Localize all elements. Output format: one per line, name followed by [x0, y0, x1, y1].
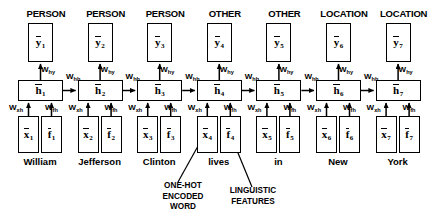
weight-label-wxh-2: Wxh [69, 104, 83, 113]
output-box-y4: y4 [207, 23, 232, 62]
weight-label-why-6: Why [339, 66, 353, 75]
input-vector-x5: x5 [262, 128, 272, 142]
output-vector-y3: y3 [155, 36, 165, 50]
weight-label-wxh-1: Wxh [9, 104, 23, 113]
feature-vector-f2: f2 [107, 128, 115, 142]
hidden-vector-h2: h2 [95, 84, 105, 98]
input-vector-x2: x2 [83, 128, 93, 142]
output-box-y3: y3 [147, 23, 172, 62]
entity-tag-label-7: LOCATION [367, 8, 437, 19]
feature-box-f6: f6 [339, 116, 360, 153]
output-vector-y6: y6 [334, 36, 344, 50]
input-box-x4: x4 [197, 116, 218, 153]
input-box-x5: x5 [256, 116, 277, 153]
word-label-7: York [361, 156, 435, 167]
hidden-box-h1: h1 [18, 80, 63, 101]
input-box-x1: x1 [18, 116, 39, 153]
rnn-diagram: PERSONy1Whyh1WhhWxhWfhx1f1WilliamPERSONy… [0, 0, 437, 220]
input-vector-x1: x1 [24, 128, 34, 142]
input-vector-x7: x7 [381, 128, 391, 142]
output-vector-y5: y5 [274, 36, 284, 50]
input-vector-x3: x3 [143, 128, 153, 142]
weight-label-wfh-3: Wfh [164, 104, 177, 113]
weight-label-wfh-6: Wfh [343, 104, 356, 113]
input-box-x2: x2 [78, 116, 99, 153]
weight-label-why-7: Why [399, 66, 413, 75]
weight-label-why-3: Why [160, 66, 174, 75]
hidden-box-h6: h6 [316, 80, 361, 101]
feature-vector-f6: f6 [346, 128, 354, 142]
feature-vector-f1: f1 [48, 128, 56, 142]
feature-vector-f7: f7 [405, 128, 413, 142]
output-box-y2: y2 [88, 23, 113, 62]
annotation-linguistic-line-2: FEATURES [216, 197, 290, 208]
input-vector-x6: x6 [322, 128, 332, 142]
hidden-vector-h7: h7 [393, 84, 403, 98]
weight-label-wfh-1: Wfh [45, 104, 58, 113]
hidden-vector-h5: h5 [274, 84, 284, 98]
input-box-x6: x6 [316, 116, 337, 153]
input-box-x3: x3 [137, 116, 158, 153]
output-box-y7: y7 [386, 23, 411, 62]
feature-vector-f4: f4 [226, 128, 234, 142]
hidden-vector-h6: h6 [333, 84, 343, 98]
weight-label-wfh-5: Wfh [283, 104, 296, 113]
hidden-box-h2: h2 [78, 80, 123, 101]
weight-label-why-1: Why [41, 66, 55, 75]
output-box-y5: y5 [266, 23, 291, 62]
feature-box-f1: f1 [41, 116, 62, 153]
annotation-one-hot-line-2: ENCODED [146, 192, 220, 203]
annotation-one-hot-line-3: WORD [146, 202, 220, 213]
feature-box-f4: f4 [220, 116, 241, 153]
hidden-box-h5: h5 [256, 80, 301, 101]
weight-label-wxh-4: Wxh [188, 104, 202, 113]
hidden-vector-h1: h1 [35, 84, 45, 98]
annotation-one-hot-line-1: ONE-HOT [146, 181, 220, 192]
weight-label-why-4: Why [220, 66, 234, 75]
output-box-y6: y6 [326, 23, 351, 62]
annotation-one-hot-encoded-word: ONE-HOT ENCODED WORD [146, 181, 220, 213]
input-box-x7: x7 [376, 116, 397, 153]
hidden-box-h7: h7 [376, 80, 421, 101]
output-vector-y1: y1 [36, 36, 46, 50]
feature-vector-f3: f3 [167, 128, 175, 142]
annotation-linguistic-line-1: LINGUISTIC [216, 186, 290, 197]
hidden-box-h3: h3 [137, 80, 182, 101]
feature-box-f2: f2 [101, 116, 122, 153]
weight-label-wfh-7: Wfh [403, 104, 416, 113]
weight-label-wfh-2: Wfh [105, 104, 118, 113]
weight-label-wfh-4: Wfh [224, 104, 237, 113]
output-box-y1: y1 [28, 23, 53, 62]
weight-label-why-2: Why [101, 66, 115, 75]
weight-label-why-5: Why [279, 66, 293, 75]
weight-label-wxh-5: Wxh [247, 104, 261, 113]
weight-label-wxh-3: Wxh [128, 104, 142, 113]
hidden-vector-h4: h4 [214, 84, 224, 98]
feature-vector-f5: f5 [286, 128, 294, 142]
annotation-linguistic-features: LINGUISTIC FEATURES [216, 186, 290, 207]
feature-box-f5: f5 [279, 116, 300, 153]
weight-label-wxh-7: Wxh [367, 104, 381, 113]
feature-box-f3: f3 [160, 116, 181, 153]
hidden-box-h4: h4 [197, 80, 242, 101]
weight-label-wxh-6: Wxh [307, 104, 321, 113]
output-vector-y7: y7 [393, 36, 403, 50]
timestep-7: LOCATIONy7Whyh7WxhWfhx7f7York [373, 0, 435, 220]
output-vector-y4: y4 [215, 36, 225, 50]
hidden-vector-h3: h3 [155, 84, 165, 98]
output-vector-y2: y2 [95, 36, 105, 50]
input-vector-x4: x4 [203, 128, 213, 142]
feature-box-f7: f7 [399, 116, 420, 153]
